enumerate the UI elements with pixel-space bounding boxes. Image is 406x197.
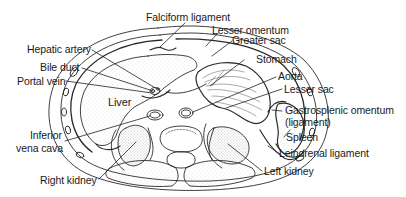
leinorenal-ligament-label: Leinorenal ligament — [279, 148, 369, 159]
stomach — [196, 63, 270, 124]
portal-vein-label: Portal vein — [17, 76, 66, 87]
bile-duct-label: Bile duct — [40, 62, 79, 73]
right-kidney-label: Right kidney — [40, 175, 97, 186]
leader-aorta — [193, 77, 276, 112]
rib — [63, 87, 70, 96]
ivc-label-line1: Inferior — [30, 130, 62, 141]
lesser-sac-label: Lesser sac — [284, 84, 334, 95]
spleen-label: Spleen — [286, 132, 318, 143]
rib — [62, 108, 67, 116]
abdominal-cross-section-diagram — [0, 0, 406, 197]
leader-greater-sac — [212, 41, 232, 56]
inferior-vena-cava — [147, 110, 163, 120]
falciform-ligament-fold — [150, 47, 176, 50]
stomach-label: Stomach — [256, 54, 297, 65]
aorta-label: Aorta — [278, 71, 303, 82]
hepatic-artery-label: Hepatic artery — [27, 44, 91, 55]
left-kidney-label: Left kidney — [264, 166, 314, 177]
gastrosplenic-omentum-label: Gastrosplenic omentum — [285, 105, 394, 116]
rib — [75, 151, 84, 158]
back-muscle-left — [106, 161, 178, 187]
vertebral-body — [160, 126, 202, 152]
falciform-ligament-label: Falciform ligament — [146, 12, 230, 23]
rib — [65, 125, 72, 134]
liver-label: Liver — [108, 97, 131, 108]
ivc-label-line2: vena cava — [16, 143, 63, 154]
lesser-omentum — [166, 84, 206, 93]
right-kidney — [118, 125, 150, 166]
gastrosplenic-ligament-label: (ligament) — [285, 117, 331, 128]
greater-sac-label: Greater sac — [232, 35, 286, 46]
back-muscle-right — [184, 161, 255, 187]
left-kidney — [207, 127, 249, 164]
